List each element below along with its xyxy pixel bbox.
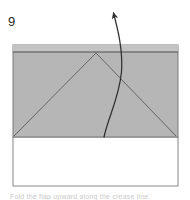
shaded-panel xyxy=(13,45,178,137)
caption-fragment: Fold the flap upward along the crease li… xyxy=(10,193,151,200)
top-band xyxy=(13,45,178,52)
white-panel xyxy=(13,137,178,186)
step-number-label: 9 xyxy=(8,14,15,29)
figure-canvas: 9 Fold the flap upward along the crease … xyxy=(0,0,190,200)
origami-step-figure: 9 Fold the flap upward along the crease … xyxy=(0,0,190,200)
